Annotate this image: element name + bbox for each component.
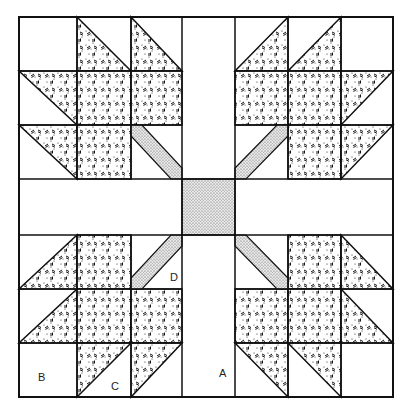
label-d: D — [170, 271, 178, 283]
center-square — [182, 179, 235, 235]
label-c: C — [111, 380, 119, 392]
label-b: B — [38, 371, 45, 383]
quilt-diagram — [0, 0, 407, 419]
label-a: A — [219, 367, 226, 379]
